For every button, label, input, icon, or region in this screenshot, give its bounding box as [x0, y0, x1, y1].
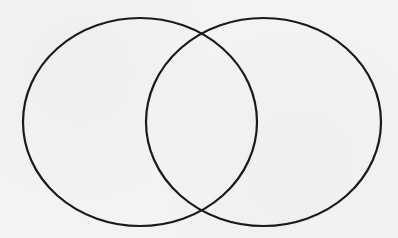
- left-set-circle: [23, 18, 257, 226]
- venn-diagram-canvas: [0, 0, 398, 238]
- right-set-circle: [146, 18, 381, 226]
- venn-diagram: [0, 0, 398, 238]
